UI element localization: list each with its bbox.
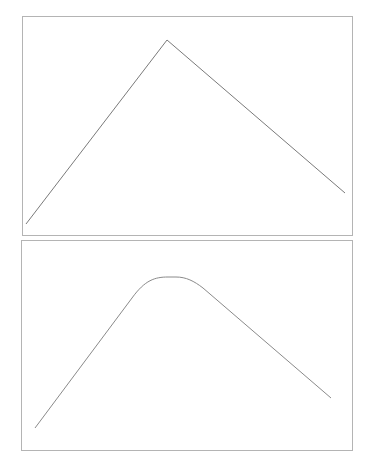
diagram-panel-sharp: Polyline with a sharp apex — [22, 16, 353, 236]
diagram-panel-rounded: Polyline with a rounded apex — [21, 240, 353, 451]
